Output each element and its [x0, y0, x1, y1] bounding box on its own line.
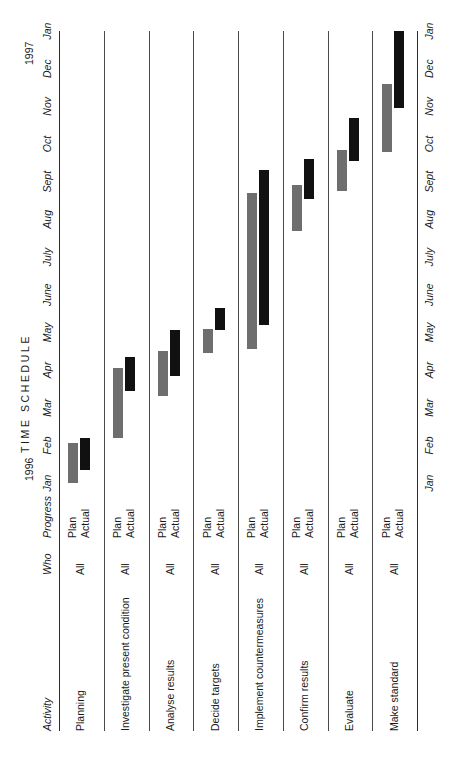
- bar-actual-7: [394, 31, 404, 108]
- bar-plan-3: [203, 329, 213, 353]
- progress-label-plan-7: Plan: [380, 517, 392, 538]
- year-label-start: 1996: [23, 458, 35, 481]
- column-header-progress: Progress: [41, 496, 53, 538]
- activity-label-4: Implement countermeasures: [253, 598, 265, 731]
- month-tick-bot-dec-11: Dec: [423, 59, 435, 78]
- progress-label-actual-3: Actual: [214, 509, 226, 538]
- month-tick-top-feb-1: Feb: [41, 436, 53, 454]
- bar-plan-4: [247, 193, 257, 349]
- progress-label-actual-7: Actual: [393, 509, 405, 538]
- progress-label-actual-6: Actual: [348, 509, 360, 538]
- who-value-0: All: [74, 563, 86, 575]
- activity-label-2: Analyse results: [164, 660, 176, 731]
- month-tick-top-oct-9: Oct: [41, 136, 53, 152]
- progress-label-actual-1: Actual: [124, 509, 136, 538]
- month-tick-bot-june-5: June: [423, 283, 435, 306]
- progress-label-actual-0: Actual: [79, 509, 91, 538]
- month-tick-top-july-6: July: [41, 248, 53, 267]
- month-tick-bot-apr-3: Apr: [423, 362, 435, 378]
- activity-label-0: Planning: [74, 690, 86, 731]
- month-tick-bot-feb-1: Feb: [423, 436, 435, 454]
- progress-label-plan-1: Plan: [111, 517, 123, 538]
- month-tick-top-nov-10: Nov: [41, 97, 53, 116]
- month-tick-top-sept-8: Sept: [41, 171, 53, 193]
- month-tick-top-dec-11: Dec: [41, 59, 53, 78]
- header-rule: [35, 31, 36, 731]
- month-tick-bot-aug-7: Aug: [423, 210, 435, 229]
- activity-label-1: Investigate present condition: [119, 597, 131, 731]
- who-value-4: All: [253, 563, 265, 575]
- progress-label-plan-4: Plan: [245, 517, 257, 538]
- bar-actual-6: [349, 118, 359, 161]
- year-label-end: 1997: [23, 42, 35, 65]
- month-tick-bot-may-4: May: [423, 322, 435, 342]
- bar-actual-0: [80, 438, 90, 470]
- bar-plan-7: [382, 84, 392, 152]
- bar-actual-4: [259, 170, 269, 324]
- progress-label-plan-2: Plan: [156, 517, 168, 538]
- bar-plan-5: [292, 185, 302, 230]
- bar-actual-5: [304, 159, 314, 199]
- progress-label-actual-5: Actual: [303, 509, 315, 538]
- month-tick-top-mar-2: Mar: [41, 399, 53, 417]
- who-value-6: All: [343, 563, 355, 575]
- progress-label-plan-5: Plan: [290, 517, 302, 538]
- month-tick-top-apr-3: Apr: [41, 362, 53, 378]
- plot-area: [59, 31, 417, 483]
- activity-label-5: Confirm results: [298, 660, 310, 731]
- activity-label-3: Decide targets: [209, 663, 221, 731]
- progress-label-plan-3: Plan: [201, 517, 213, 538]
- bar-plan-0: [68, 443, 78, 483]
- who-value-2: All: [164, 563, 176, 575]
- page-title: TIME SCHEDULE: [19, 334, 31, 453]
- month-tick-top-may-4: May: [41, 322, 53, 342]
- bar-plan-2: [158, 351, 168, 396]
- chart-stage: TIME SCHEDULE 1996 1997 Activity Who Pro…: [13, 8, 450, 753]
- month-tick-bot-mar-2: Mar: [423, 399, 435, 417]
- month-tick-top-jan-0: Jan: [41, 475, 53, 492]
- progress-label-plan-0: Plan: [66, 517, 78, 538]
- column-header-activity: Activity: [41, 698, 53, 731]
- progress-label-actual-4: Actual: [258, 509, 270, 538]
- bar-plan-1: [113, 368, 123, 438]
- month-tick-bot-july-6: July: [423, 248, 435, 267]
- who-value-7: All: [388, 563, 400, 575]
- who-value-3: All: [209, 563, 221, 575]
- month-tick-bot-oct-9: Oct: [423, 136, 435, 152]
- activity-label-6: Evaluate: [343, 690, 355, 731]
- gantt-chart-page: TIME SCHEDULE 1996 1997 Activity Who Pro…: [0, 0, 463, 761]
- bar-actual-3: [215, 308, 225, 331]
- month-tick-top-jan-12: Jan: [41, 23, 53, 40]
- column-header-who: Who: [41, 553, 53, 575]
- row-divider-8: [417, 31, 418, 731]
- month-tick-bot-nov-10: Nov: [423, 97, 435, 116]
- who-value-5: All: [298, 563, 310, 575]
- progress-label-plan-6: Plan: [335, 517, 347, 538]
- month-tick-top-june-5: June: [41, 283, 53, 306]
- month-tick-bot-jan-12: Jan: [423, 23, 435, 40]
- activity-label-7: Make standard: [388, 662, 400, 731]
- bar-actual-1: [125, 357, 135, 391]
- month-tick-bot-sept-8: Sept: [423, 171, 435, 193]
- month-tick-bot-jan-0: Jan: [423, 475, 435, 492]
- bar-plan-6: [337, 150, 347, 191]
- progress-label-actual-2: Actual: [169, 509, 181, 538]
- who-value-1: All: [119, 563, 131, 575]
- month-tick-top-aug-7: Aug: [41, 210, 53, 229]
- chart-stage-wrapper: TIME SCHEDULE 1996 1997 Activity Who Pro…: [13, 8, 450, 753]
- bar-actual-2: [170, 330, 180, 375]
